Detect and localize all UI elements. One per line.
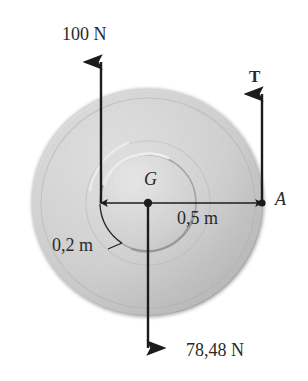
force-label-tension: T [249,68,260,85]
point-label-g: G [144,170,157,188]
force-label-weight: 78,48 N [186,341,244,359]
dimension-label-inner-radius: 0,2 m [52,236,93,254]
force-label-100n: 100 N [62,25,107,43]
dimension-label-outer-radius: 0,5 m [177,209,218,227]
point-marker-a [258,199,265,206]
free-body-diagram: 100 N T 78,48 N 0,5 m 0,2 m G A [0,0,308,381]
diagram-canvas [0,0,308,381]
point-label-a: A [275,190,286,208]
point-marker-g [144,199,152,207]
